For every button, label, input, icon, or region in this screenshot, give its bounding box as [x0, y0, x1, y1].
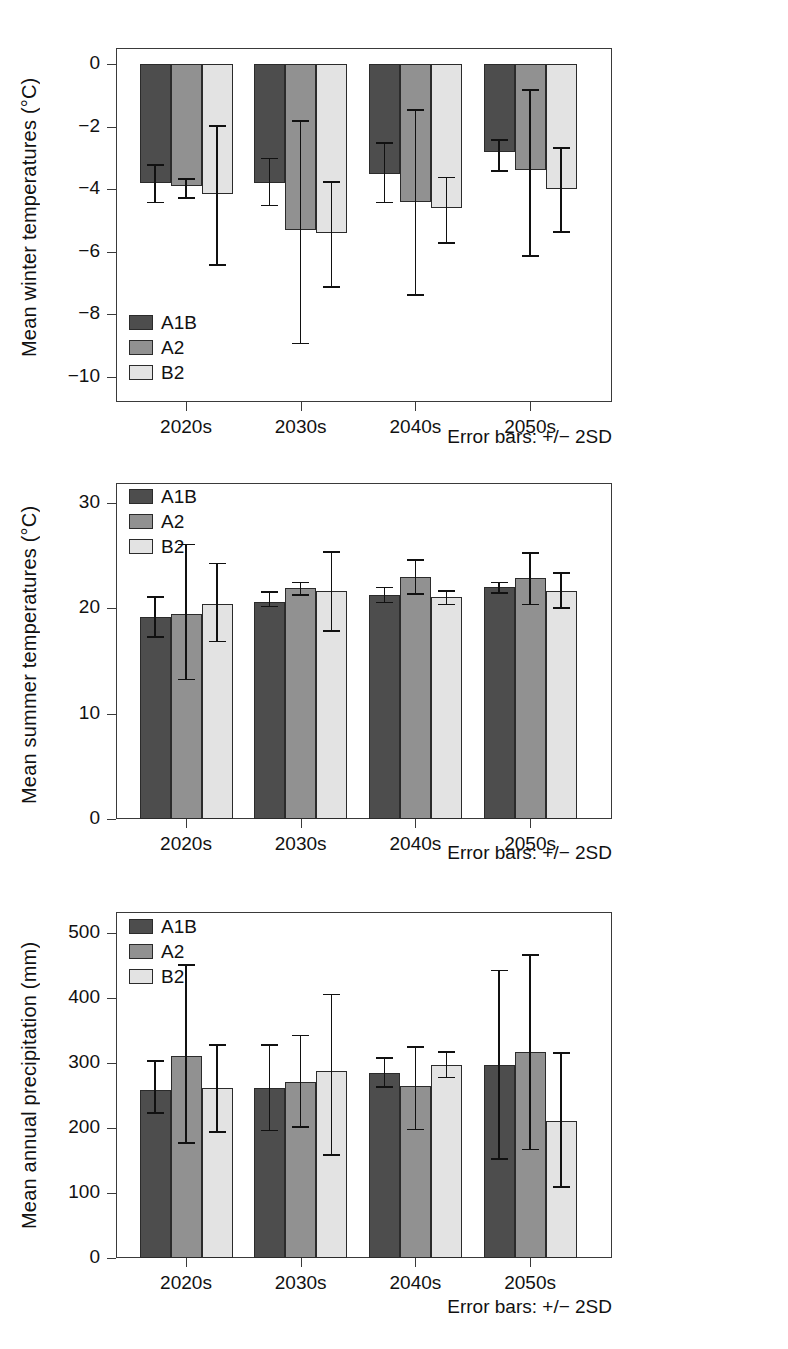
y-tick-label-summer-3: 0	[26, 807, 100, 829]
error-cap-summer-2050s-A2-low	[522, 604, 539, 606]
y-axis-label-summer: Mean summer temperatures (°C)	[18, 490, 41, 820]
y-tick-precipitation-1	[107, 998, 116, 999]
error-cap-precipitation-2030s-B2-low	[323, 1154, 340, 1156]
y-tick-label-winter-2: −4	[26, 177, 100, 199]
y-tick-precipitation-4	[107, 1193, 116, 1194]
error-cap-winter-2020s-B2-low	[209, 264, 226, 266]
error-bar-winter-2030s-A1B	[269, 158, 271, 205]
error-cap-precipitation-2030s-A1B-low	[261, 1130, 278, 1132]
error-bar-note-summer: Error bars: +/− 2SD	[382, 842, 612, 864]
legend-label-b2: B2	[161, 967, 184, 986]
error-cap-summer-2040s-A2-low	[407, 593, 424, 595]
error-cap-summer-2020s-A1B-low	[147, 636, 164, 638]
x-tick-label-summer-0: 2020s	[136, 833, 236, 855]
error-bar-precipitation-2040s-A1B	[384, 1057, 386, 1086]
error-cap-summer-2020s-A2-low	[178, 679, 195, 681]
y-tick-label-winter-3: −6	[26, 240, 100, 262]
bar-precipitation-2040s-B2	[431, 1065, 462, 1258]
legend-precipitation: A1BA2B2	[129, 917, 197, 992]
error-cap-precipitation-2030s-A2-low	[292, 1126, 309, 1128]
legend-item-a2[interactable]: A2	[129, 338, 197, 357]
error-cap-precipitation-2040s-B2-high	[438, 1051, 455, 1053]
legend-item-a2[interactable]: A2	[129, 512, 197, 531]
legend-label-a2: A2	[161, 942, 184, 961]
y-tick-winter-2	[107, 189, 116, 190]
legend-label-a2: A2	[161, 338, 184, 357]
legend-swatch-a2-icon	[129, 514, 153, 529]
legend-item-a1b[interactable]: A1B	[129, 487, 197, 506]
y-tick-winter-0	[107, 64, 116, 65]
y-tick-summer-1	[107, 608, 116, 609]
legend-label-a1b: A1B	[161, 487, 197, 506]
error-cap-winter-2030s-A1B-high	[261, 158, 278, 160]
legend-item-b2[interactable]: B2	[129, 537, 197, 556]
error-cap-summer-2020s-B2-low	[209, 641, 226, 643]
error-cap-winter-2050s-A1B-high	[491, 139, 508, 141]
y-tick-winter-4	[107, 314, 116, 315]
legend-item-b2[interactable]: B2	[129, 967, 197, 986]
error-cap-winter-2050s-A2-high	[522, 89, 539, 91]
error-bar-winter-2040s-A1B	[384, 142, 386, 201]
error-cap-winter-2030s-A2-high	[292, 120, 309, 122]
error-cap-summer-2050s-A1B-high	[491, 582, 508, 584]
bar-summer-2040s-A1B	[369, 595, 400, 819]
error-bar-precipitation-2030s-A2	[300, 1035, 302, 1126]
error-cap-summer-2040s-B2-low	[438, 604, 455, 606]
error-cap-precipitation-2040s-A2-high	[407, 1046, 424, 1048]
legend-item-a2[interactable]: A2	[129, 942, 197, 961]
error-bar-summer-2030s-B2	[331, 551, 333, 630]
x-tick-label-precipitation-0: 2020s	[136, 1272, 236, 1294]
error-cap-winter-2050s-B2-high	[553, 147, 570, 149]
legend-item-a1b[interactable]: A1B	[129, 313, 197, 332]
error-cap-summer-2030s-A1B-high	[261, 591, 278, 593]
x-tick-summer-2	[415, 819, 416, 828]
error-cap-precipitation-2020s-B2-high	[209, 1044, 226, 1046]
error-bar-note-precipitation: Error bars: +/− 2SD	[382, 1296, 612, 1318]
error-bar-winter-2030s-B2	[331, 181, 333, 286]
error-cap-precipitation-2040s-A1B-low	[376, 1086, 393, 1088]
x-tick-precipitation-2	[415, 1258, 416, 1267]
error-bar-summer-2020s-A2	[185, 544, 187, 679]
legend-label-a2: A2	[161, 512, 184, 531]
legend-label-b2: B2	[161, 537, 184, 556]
y-tick-winter-1	[107, 127, 116, 128]
error-cap-precipitation-2050s-B2-high	[553, 1052, 570, 1054]
error-cap-precipitation-2020s-A2-low	[178, 1142, 195, 1144]
bar-summer-2040s-A2	[400, 577, 431, 819]
x-tick-label-precipitation-1: 2030s	[251, 1272, 351, 1294]
y-tick-label-precipitation-4: 100	[26, 1181, 100, 1203]
bar-winter-2020s-A2	[171, 64, 202, 186]
error-bar-summer-2020s-A1B	[154, 596, 156, 636]
error-bar-winter-2040s-A2	[415, 109, 417, 294]
bar-summer-2040s-B2	[431, 597, 462, 819]
error-cap-summer-2040s-A1B-high	[376, 587, 393, 589]
legend-swatch-b2-icon	[129, 365, 153, 380]
y-tick-precipitation-5	[107, 1258, 116, 1259]
error-cap-winter-2040s-A2-low	[407, 294, 424, 296]
legend-item-a1b[interactable]: A1B	[129, 917, 197, 936]
error-cap-winter-2030s-B2-high	[323, 181, 340, 183]
error-cap-winter-2040s-A2-high	[407, 109, 424, 111]
error-cap-summer-2030s-B2-low	[323, 630, 340, 632]
chart-panel-summer: Mean summer temperatures (°C) 3020100202…	[0, 460, 788, 870]
y-tick-label-summer-1: 20	[26, 596, 100, 618]
error-cap-summer-2040s-A1B-low	[376, 602, 393, 604]
error-bar-winter-2050s-A2	[529, 89, 531, 255]
bar-precipitation-2040s-A1B	[369, 1073, 400, 1258]
y-tick-summer-3	[107, 819, 116, 820]
legend-item-b2[interactable]: B2	[129, 363, 197, 382]
error-cap-precipitation-2020s-B2-low	[209, 1131, 226, 1133]
legend-swatch-a1b-icon	[129, 919, 153, 934]
y-axis-label-precipitation: Mean annual precipitation (mm)	[18, 915, 41, 1255]
legend-winter: A1BA2B2	[129, 313, 197, 388]
error-cap-winter-2030s-B2-low	[323, 286, 340, 288]
error-cap-precipitation-2050s-A2-high	[522, 954, 539, 956]
bar-summer-2030s-A2	[285, 588, 316, 819]
y-tick-summer-2	[107, 714, 116, 715]
error-cap-winter-2050s-A2-low	[522, 255, 539, 257]
error-cap-precipitation-2050s-B2-low	[553, 1186, 570, 1188]
error-bar-precipitation-2020s-B2	[216, 1044, 218, 1131]
error-cap-winter-2020s-B2-high	[209, 125, 226, 127]
error-cap-precipitation-2040s-B2-low	[438, 1077, 455, 1079]
chart-panel-precipitation: Mean annual precipitation (mm) 500400300…	[0, 870, 788, 1349]
